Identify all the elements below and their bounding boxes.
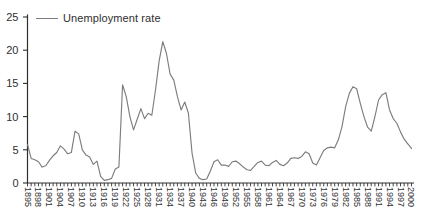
x-axis-tick-label: 1919 bbox=[110, 187, 120, 207]
x-axis-tick-label: 1907 bbox=[66, 187, 76, 207]
x-axis-tick-label: 1922 bbox=[121, 187, 131, 207]
unemployment-rate-line bbox=[28, 42, 412, 181]
x-axis-tick-label: 1895 bbox=[23, 187, 33, 207]
x-axis-tick-label: 1943 bbox=[198, 187, 208, 207]
y-axis-tick-label: 25 bbox=[6, 11, 18, 23]
x-axis-tick-label: 1994 bbox=[385, 187, 395, 207]
x-axis-tick-label: 1997 bbox=[396, 187, 406, 207]
x-axis-tick-label: 1940 bbox=[187, 187, 197, 207]
x-axis-tick-label: 1934 bbox=[165, 187, 175, 207]
x-axis-tick-label: 1928 bbox=[143, 187, 153, 207]
chart-canvas: 0510152025189518981901190419071910191319… bbox=[0, 0, 425, 222]
y-axis-tick-label: 0 bbox=[12, 177, 18, 189]
legend: Unemployment rate bbox=[36, 11, 161, 25]
x-axis-tick-label: 1991 bbox=[374, 187, 384, 207]
x-axis-tick-label: 1901 bbox=[44, 187, 54, 207]
x-axis-tick-label: 1988 bbox=[363, 187, 373, 207]
x-axis-tick-label: 1961 bbox=[264, 187, 274, 207]
x-axis-tick-label: 1910 bbox=[77, 187, 87, 207]
x-axis-tick-label: 1952 bbox=[231, 187, 241, 207]
y-axis-tick-label: 5 bbox=[12, 144, 18, 156]
x-axis-tick-label: 1913 bbox=[88, 187, 98, 207]
x-axis-tick-label: 1946 bbox=[209, 187, 219, 207]
x-axis-tick-label: 1937 bbox=[176, 187, 186, 207]
x-axis-tick-label: 1967 bbox=[286, 187, 296, 207]
unemployment-rate-chart: 0510152025189518981901190419071910191319… bbox=[0, 0, 425, 222]
x-axis-tick-label: 1958 bbox=[253, 187, 263, 207]
x-axis-tick-label: 1979 bbox=[330, 187, 340, 207]
x-axis-tick-label: 1955 bbox=[242, 187, 252, 207]
x-axis-tick-label: 1985 bbox=[352, 187, 362, 207]
x-axis-tick-label: 1925 bbox=[132, 187, 142, 207]
x-axis-tick-label: 1976 bbox=[319, 187, 329, 207]
axes bbox=[28, 15, 414, 184]
x-axis-tick-label: 1931 bbox=[154, 187, 164, 207]
x-axis-tick-label: 1949 bbox=[220, 187, 230, 207]
x-axis-tick-label: 1916 bbox=[99, 187, 109, 207]
legend-line-sample bbox=[36, 18, 58, 19]
x-axis-tick-label: 1898 bbox=[33, 187, 43, 207]
y-axis-tick-label: 15 bbox=[6, 77, 18, 89]
x-axis-tick-label: 2000 bbox=[406, 187, 416, 207]
x-axis-tick-label: 1973 bbox=[308, 187, 318, 207]
y-axis-tick-label: 10 bbox=[6, 111, 18, 123]
x-axis-tick-label: 1970 bbox=[297, 187, 307, 207]
x-axis-tick-label: 1982 bbox=[341, 187, 351, 207]
y-axis-tick-label: 20 bbox=[6, 44, 18, 56]
legend-label: Unemployment rate bbox=[63, 12, 161, 24]
x-axis-tick-label: 1964 bbox=[275, 187, 285, 207]
x-axis-tick-label: 1904 bbox=[55, 187, 65, 207]
